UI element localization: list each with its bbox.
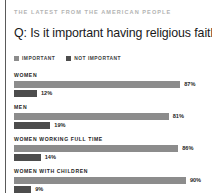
legend-swatch-not-important: [66, 56, 71, 61]
kicker-text: THE LATEST FROM THE AMERICAN PEOPLE: [14, 9, 171, 15]
bar-row: 86%: [14, 145, 212, 152]
bar-row: 81%: [14, 113, 212, 120]
infographic-card: THE LATEST FROM THE AMERICAN PEOPLE Q: I…: [0, 0, 212, 193]
bar-value-label: 12%: [41, 90, 52, 97]
bar-row: 14%: [14, 154, 212, 161]
bar-group: MEN81%19%: [14, 104, 212, 129]
bar-group: WOMEN WORKING FULL TIME86%14%: [14, 136, 212, 161]
bar-not-important: [14, 122, 50, 129]
bar-important: [14, 177, 186, 184]
legend-label-important: IMPORTANT: [22, 56, 55, 61]
bar-important: [14, 81, 180, 88]
bar-row: 19%: [14, 122, 212, 129]
bar-value-label: 86%: [182, 145, 193, 152]
bar-value-label: 19%: [54, 122, 65, 129]
legend-swatch-important: [14, 56, 19, 61]
bar-value-label: 14%: [45, 154, 56, 161]
legend-label-not-important: NOT IMPORTANT: [74, 56, 121, 61]
left-accent-rule: [5, 0, 6, 193]
bar-group-label: MEN: [14, 104, 212, 110]
bar-row: 12%: [14, 90, 212, 97]
chart-legend: IMPORTANT NOT IMPORTANT: [14, 56, 121, 61]
legend-item-important: IMPORTANT: [14, 56, 55, 61]
bar-value-label: 90%: [190, 177, 201, 184]
page-title: Q: Is it important having religious fait…: [14, 26, 212, 40]
bar-row: 9%: [14, 186, 212, 193]
bar-group-label: WOMEN WORKING FULL TIME: [14, 136, 212, 142]
bar-groups: WOMEN87%12%MEN81%19%WOMEN WORKING FULL T…: [14, 72, 212, 193]
bar-row: 87%: [14, 81, 212, 88]
bar-not-important: [14, 90, 37, 97]
bar-group-label: WOMEN: [14, 72, 212, 78]
bar-group: WOMEN87%12%: [14, 72, 212, 97]
bar-group: WOMEN WITH CHILDREN90%9%: [14, 168, 212, 193]
bar-important: [14, 145, 178, 152]
bar-value-label: 81%: [173, 113, 184, 120]
bar-not-important: [14, 186, 31, 193]
card-content: THE LATEST FROM THE AMERICAN PEOPLE Q: I…: [14, 0, 212, 193]
bar-group-label: WOMEN WITH CHILDREN: [14, 168, 212, 174]
bar-value-label: 87%: [184, 81, 195, 88]
bar-value-label: 9%: [35, 186, 43, 193]
bar-important: [14, 113, 169, 120]
legend-item-not-important: NOT IMPORTANT: [66, 56, 121, 61]
bar-not-important: [14, 154, 41, 161]
bar-row: 90%: [14, 177, 212, 184]
